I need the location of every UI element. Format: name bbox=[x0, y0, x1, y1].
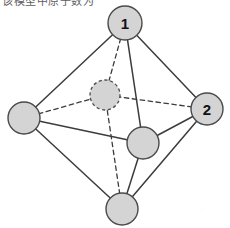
edge-layer bbox=[35, 34, 197, 199]
edge-top-front bbox=[127, 39, 140, 128]
octahedron-diagram: 12 bbox=[0, 0, 230, 228]
node-circle-bottom bbox=[106, 193, 138, 225]
figure-root: 该模型中原子数为 12 bbox=[0, 0, 230, 228]
edge-right-front bbox=[156, 116, 194, 136]
edge-top-right bbox=[136, 35, 197, 99]
node-label-top: 1 bbox=[121, 15, 129, 32]
edge-right-back bbox=[119, 97, 192, 107]
node-back bbox=[90, 80, 120, 110]
edge-top-back bbox=[109, 38, 121, 81]
node-top: 1 bbox=[108, 6, 142, 40]
node-front bbox=[127, 127, 159, 159]
node-right: 2 bbox=[191, 93, 223, 125]
node-bottom bbox=[106, 193, 138, 225]
node-circle-front bbox=[127, 127, 159, 159]
edge-left-front bbox=[39, 121, 129, 140]
node-circle-left bbox=[8, 102, 40, 134]
node-left bbox=[8, 102, 40, 134]
edge-left-back bbox=[38, 99, 91, 114]
edge-bottom-front bbox=[127, 157, 139, 194]
edge-bottom-back bbox=[107, 109, 120, 194]
node-label-right: 2 bbox=[203, 101, 211, 118]
node-circle-back bbox=[90, 80, 120, 110]
edge-bottom-left bbox=[35, 128, 111, 199]
node-layer: 12 bbox=[8, 6, 223, 225]
